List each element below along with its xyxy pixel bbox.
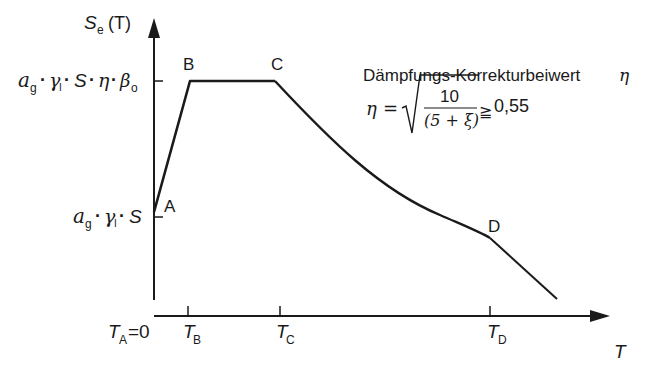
point-label-a: A [164,197,176,216]
response-spectrum-diagram: B C A D S e (T) a g · γ I · S · η · β o … [0,0,656,371]
svg-text:A: A [119,333,127,347]
svg-text:B: B [193,333,201,347]
svg-text:·: · [89,70,95,90]
formula-bound: 0,55 [494,96,529,116]
svg-text:o: o [131,81,138,95]
y-axis-argument: (T) [108,13,131,33]
svg-text:·: · [40,70,46,90]
x-tick-label-tc: T C [276,321,295,347]
point-label-b: B [183,55,194,74]
y-axis-subscript: e [97,23,104,37]
svg-text:S: S [74,70,87,91]
y-tick-label-ground: a g · γ I · S [73,204,142,231]
x-tick-label-td: T D [487,321,507,347]
svg-text:I: I [59,82,62,93]
svg-text:g: g [85,217,92,231]
svg-text:a: a [18,68,30,92]
svg-text:=0: =0 [128,321,150,342]
svg-text:S: S [129,206,142,227]
y-axis-symbol: S [84,12,97,33]
svg-text:·: · [64,70,70,90]
formula-lhs: η [366,98,377,119]
spectrum-segment-a-b-c [154,81,275,212]
annotation-heading-symbol: η [619,65,630,85]
svg-text:a: a [73,204,85,228]
svg-text:·: · [111,70,117,90]
y-axis-title: S e (T) [84,12,131,37]
svg-text:β: β [119,70,130,91]
formula-equals: = [383,98,398,119]
formula-denominator: (5 + ξ) [424,111,479,130]
svg-text:g: g [30,81,37,95]
x-tick-label-tb: T B [183,321,201,347]
svg-text:I: I [114,218,117,229]
svg-text:·: · [95,206,101,226]
point-label-c: C [271,55,283,74]
svg-text:D: D [498,333,507,347]
svg-text:η: η [98,69,110,91]
formula-numerator: 10 [440,87,459,106]
svg-text:C: C [286,333,295,347]
x-axis-title: T [614,341,627,362]
spectrum-segment-d-end [490,238,557,299]
svg-text:·: · [119,206,125,226]
point-label-d: D [488,217,500,236]
y-axis-arrow-icon [148,18,160,38]
x-axis-arrow-icon [590,310,610,322]
damping-annotation: Dämpfungs-Korrekturbeiwert η η = 10 (5 +… [363,65,630,133]
y-tick-label-plateau: a g · γ I · S · η · β o [18,68,138,95]
x-tick-label-ta: T A =0 [108,321,150,347]
formula-relation: ≧ [479,103,492,120]
